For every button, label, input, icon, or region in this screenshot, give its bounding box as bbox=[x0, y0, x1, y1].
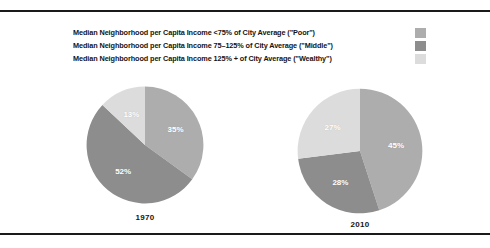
legend-item-label: Median Neighborhood per Capita Income 75… bbox=[73, 39, 333, 52]
legend-swatch-poor bbox=[415, 28, 426, 38]
top-rule bbox=[0, 10, 490, 12]
legend-swatch-wealthy bbox=[415, 54, 426, 64]
pie-wrap: 35%52%13% bbox=[86, 86, 204, 204]
pie-slice-value-label: 27% bbox=[325, 122, 341, 131]
pie-chart-1970: 35%52%13% 1970 bbox=[78, 86, 212, 222]
legend-item-wealthy: Median Neighborhood per Capita Income 12… bbox=[73, 52, 433, 65]
pie-year-label: 2010 bbox=[293, 220, 427, 229]
figure-canvas: Median Neighborhood per Capita Income <7… bbox=[0, 0, 490, 248]
pie-slice-value-label: 13% bbox=[123, 109, 139, 118]
legend-swatch-group bbox=[415, 28, 426, 64]
pie-slice-value-label: 28% bbox=[332, 177, 348, 186]
pie-slice-value-label: 52% bbox=[115, 167, 131, 176]
bottom-rule bbox=[0, 233, 490, 235]
legend-item-label: Median Neighborhood per Capita Income <7… bbox=[73, 26, 315, 39]
legend-item-label: Median Neighborhood per Capita Income 12… bbox=[73, 52, 332, 65]
pie-year-label: 1970 bbox=[78, 213, 212, 222]
legend-swatch-middle bbox=[415, 41, 426, 51]
legend-item-middle: Median Neighborhood per Capita Income 75… bbox=[73, 39, 433, 52]
pie-slice-value-label: 45% bbox=[388, 141, 404, 150]
pie-slice-value-label: 35% bbox=[167, 125, 183, 134]
pie-svg bbox=[297, 88, 423, 214]
pie-chart-2010: 45%28%27% 2010 bbox=[293, 88, 427, 229]
legend-item-poor: Median Neighborhood per Capita Income <7… bbox=[73, 26, 433, 39]
pie-wrap: 45%28%27% bbox=[297, 88, 423, 214]
pie-svg bbox=[86, 86, 204, 204]
chart-legend: Median Neighborhood per Capita Income <7… bbox=[73, 26, 433, 65]
